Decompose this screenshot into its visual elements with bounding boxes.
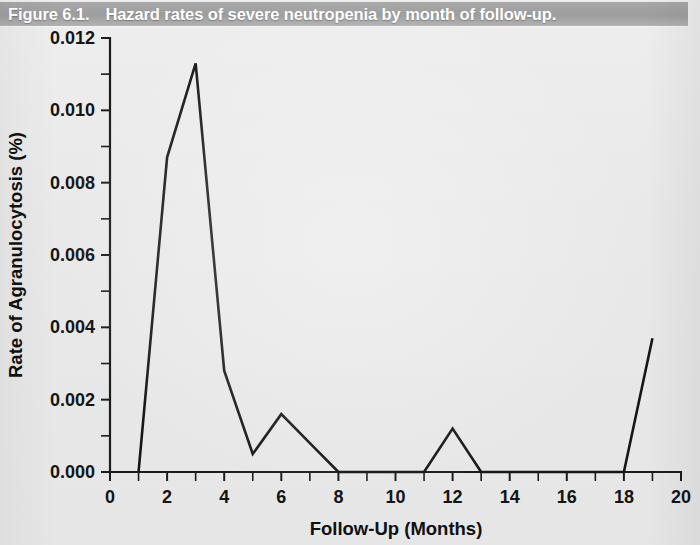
- y-tick-label-0.000: 0.000: [50, 462, 95, 482]
- y-axis-ticks: [101, 38, 110, 472]
- x-axis-ticks: [110, 472, 681, 481]
- x-tick-label-16: 16: [557, 487, 577, 507]
- figure-number: Figure 6.1.: [8, 5, 89, 23]
- x-tick-label-6: 6: [276, 487, 286, 507]
- x-tick-label-10: 10: [385, 487, 405, 507]
- hazard-rate-series-line: [139, 63, 653, 472]
- x-tick-label-0: 0: [105, 487, 115, 507]
- y-axis-title: Rate of Agranulocytosis (%): [5, 132, 26, 378]
- y-axis-tick-labels: 0.0000.0020.0040.0060.0080.0100.012: [50, 28, 95, 482]
- figure-caption: Figure 6.1. Hazard rates of severe neutr…: [8, 3, 556, 26]
- x-tick-label-8: 8: [333, 487, 343, 507]
- figure-caption-banner: Figure 6.1. Hazard rates of severe neutr…: [0, 2, 688, 26]
- y-tick-label-0.012: 0.012: [50, 28, 95, 48]
- figure-caption-text: Hazard rates of severe neutropenia by mo…: [105, 5, 556, 23]
- y-tick-label-0.006: 0.006: [50, 245, 95, 265]
- hazard-rate-line-chart: 0.0000.0020.0040.0060.0080.0100.012 0246…: [0, 26, 700, 545]
- y-tick-label-0.008: 0.008: [50, 173, 95, 193]
- x-tick-label-12: 12: [443, 487, 463, 507]
- x-axis-title: Follow-Up (Months): [310, 518, 483, 539]
- x-axis-tick-labels: 02468101214161820: [105, 487, 691, 507]
- x-tick-label-2: 2: [162, 487, 172, 507]
- figure-container: Figure 6.1. Hazard rates of severe neutr…: [0, 0, 700, 545]
- x-tick-label-14: 14: [500, 487, 520, 507]
- x-tick-label-20: 20: [671, 487, 691, 507]
- x-tick-label-4: 4: [219, 487, 229, 507]
- y-tick-label-0.010: 0.010: [50, 100, 95, 120]
- y-tick-label-0.004: 0.004: [50, 317, 95, 337]
- plot-area: 0.0000.0020.0040.0060.0080.0100.012 0246…: [0, 26, 700, 545]
- y-tick-label-0.002: 0.002: [50, 390, 95, 410]
- x-tick-label-18: 18: [614, 487, 634, 507]
